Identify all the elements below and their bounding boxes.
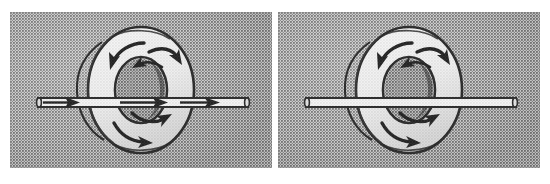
panel-halftone-overlay [10, 12, 272, 168]
panel-halftone-overlay [278, 12, 540, 168]
left-panel [10, 12, 272, 168]
right-panel [278, 12, 540, 168]
left-panel-illustration [10, 12, 272, 168]
figure-container [0, 0, 550, 184]
right-panel-illustration [278, 12, 540, 168]
